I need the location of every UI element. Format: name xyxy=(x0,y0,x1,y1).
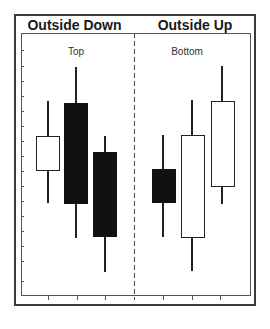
candle-2-black xyxy=(64,67,88,238)
candlestick-chart xyxy=(0,0,270,329)
candle-4-black xyxy=(152,135,176,237)
candle-6-white xyxy=(212,66,235,204)
candle-3-black xyxy=(93,136,117,272)
candle-5-white xyxy=(182,100,205,271)
annotation-bottom: Bottom xyxy=(162,46,212,57)
annotation-top: Top xyxy=(56,46,96,57)
candle-1-white xyxy=(37,101,60,203)
